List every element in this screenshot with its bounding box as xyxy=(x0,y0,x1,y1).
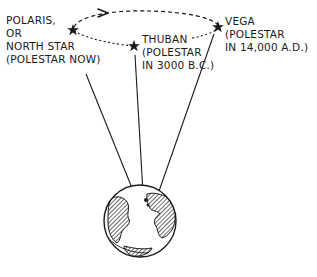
label-line: NORTH STAR xyxy=(6,40,101,53)
label-line: VEGA xyxy=(225,15,308,28)
star-label-vega: VEGA (POLESTAR IN 14,000 A.D.) xyxy=(225,15,308,54)
label-line: THUBAN xyxy=(142,33,214,46)
sight-line-polaris xyxy=(86,74,134,193)
earth-globe-icon xyxy=(104,185,176,257)
star-label-thuban: THUBAN (POLESTAR IN 3000 B.C.) xyxy=(142,33,214,72)
star-icon xyxy=(128,40,140,51)
label-line: (POLESTAR xyxy=(142,46,214,59)
label-line: IN 14,000 A.D.) xyxy=(225,41,308,54)
label-line: IN 3000 B.C.) xyxy=(142,59,214,72)
label-line: (POLESTAR NOW) xyxy=(6,53,101,66)
star-label-polaris: POLARIS, OR NORTH STAR (POLESTAR NOW) xyxy=(6,14,101,66)
polestar-precession-diagram: POLARIS, OR NORTH STAR (POLESTAR NOW) TH… xyxy=(0,0,317,277)
sight-line-thuban xyxy=(135,55,143,193)
label-line: OR xyxy=(6,27,101,40)
label-line: (POLESTAR xyxy=(225,28,308,41)
label-line: POLARIS, xyxy=(6,14,101,27)
